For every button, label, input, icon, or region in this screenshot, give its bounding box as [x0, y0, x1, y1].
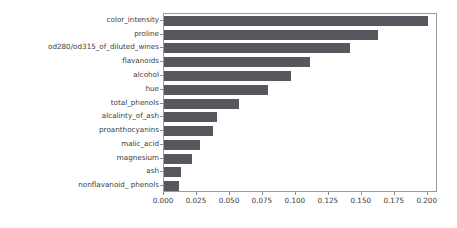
bar-fill — [164, 181, 179, 191]
y-axis-label: proline — [0, 30, 159, 37]
bar — [164, 57, 310, 67]
bar-fill — [164, 43, 350, 53]
x-axis-tick — [427, 192, 428, 195]
bar — [164, 126, 213, 136]
plot-area — [163, 13, 437, 192]
bar — [164, 43, 350, 53]
x-axis-tick-label: 0.050 — [219, 197, 240, 204]
y-axis-label: hue — [0, 85, 159, 92]
bar-fill — [164, 140, 200, 150]
bar-fill — [164, 112, 217, 122]
x-axis-tick — [196, 192, 197, 195]
x-axis-tick-label: 0.000 — [153, 197, 174, 204]
bar — [164, 140, 200, 150]
x-axis-tick — [295, 192, 296, 195]
x-axis-tick-label: 0.025 — [186, 197, 207, 204]
y-axis-label: ash — [0, 167, 159, 174]
x-axis-tick — [394, 192, 395, 195]
x-axis-tick-label: 0.200 — [416, 197, 437, 204]
bar-fill — [164, 126, 213, 136]
y-axis-label: total_phenols — [0, 99, 159, 106]
x-axis-tick-label: 0.125 — [318, 197, 339, 204]
x-axis-tick — [163, 192, 164, 195]
bar — [164, 30, 378, 40]
x-axis-tick — [361, 192, 362, 195]
x-axis-tick — [262, 192, 263, 195]
x-axis-tick-label: 0.100 — [285, 197, 306, 204]
y-axis-label: color_intensity — [0, 16, 159, 23]
bar — [164, 99, 239, 109]
bar — [164, 85, 268, 95]
bar-fill — [164, 167, 181, 177]
y-axis-label: flavanoids — [0, 57, 159, 64]
bar-fill — [164, 85, 268, 95]
y-axis-label: proanthocyanins — [0, 126, 159, 133]
x-axis-tick-label: 0.175 — [383, 197, 404, 204]
y-axis-label: nonflavanoid_ phenols — [0, 181, 159, 188]
bar-fill — [164, 16, 428, 26]
bar — [164, 16, 428, 26]
x-axis-tick-label: 0.150 — [350, 197, 371, 204]
y-axis-label: alcohol — [0, 71, 159, 78]
bar-fill — [164, 99, 239, 109]
bar — [164, 112, 217, 122]
y-axis-label: od280/od315_of_diluted_wines — [0, 43, 159, 50]
feature-importance-bar-chart: color_intensityprolineod280/od315_of_dil… — [0, 0, 457, 228]
bar-fill — [164, 57, 310, 67]
x-axis-tick — [229, 192, 230, 195]
bar — [164, 71, 291, 81]
y-axis-label: malic_acid — [0, 140, 159, 147]
y-axis-label: alcalinty_of_ash — [0, 112, 159, 119]
bar — [164, 181, 179, 191]
y-axis-label: magnesium — [0, 154, 159, 161]
bar — [164, 167, 181, 177]
bar-fill — [164, 71, 291, 81]
bar-fill — [164, 30, 378, 40]
bar — [164, 154, 192, 164]
bar-fill — [164, 154, 192, 164]
x-axis-tick — [328, 192, 329, 195]
x-axis-tick-label: 0.075 — [252, 197, 273, 204]
